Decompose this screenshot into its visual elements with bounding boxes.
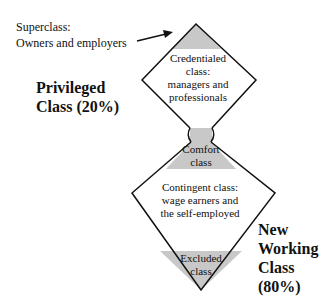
excluded-label: Excluded class <box>176 252 226 278</box>
arrow-icon <box>137 34 166 41</box>
new-working-class-label: New Working Class (80%) <box>258 220 318 296</box>
superclass-label: Superclass: Owners and employers <box>16 19 127 51</box>
superclass-region <box>171 24 221 49</box>
credentialed-label: Credentialed class: managers and profess… <box>160 52 236 104</box>
neck-region <box>190 128 212 142</box>
contingent-label: Contingent class: wage earners and the s… <box>150 181 250 220</box>
comfort-label: Comfort class <box>176 143 226 169</box>
privileged-class-label: Privileged Class (20%) <box>36 78 119 116</box>
